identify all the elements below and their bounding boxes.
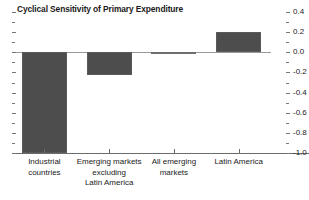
y-tick-minor-left <box>12 143 15 144</box>
y-tick-minor-left <box>12 42 15 43</box>
x-tick <box>109 149 110 153</box>
y-tick-minor-right <box>286 22 289 23</box>
bar <box>216 32 261 52</box>
y-axis-label: -1.0 <box>293 149 307 157</box>
bar <box>87 52 132 75</box>
bar <box>22 52 67 153</box>
y-axis-label: -0.2 <box>293 68 307 76</box>
y-tick-major-left <box>12 12 16 13</box>
x-tick <box>44 149 45 153</box>
y-tick-minor-right <box>286 62 289 63</box>
y-tick-minor-left <box>12 123 15 124</box>
x-axis-baseline <box>12 153 309 154</box>
y-tick-minor-right <box>286 103 289 104</box>
chart-figure: Cyclical Sensitivity of Primary Expendit… <box>0 0 309 200</box>
y-tick-major-right <box>286 52 290 53</box>
y-axis-label: 0.2 <box>293 28 304 36</box>
plot-area: 0.40.20.0-0.2-0.4-0.6-0.8-1.0Industrial … <box>12 12 271 153</box>
y-tick-major-left <box>12 72 16 73</box>
y-tick-major-left <box>12 113 16 114</box>
x-tick <box>239 149 240 153</box>
bar <box>151 52 196 54</box>
y-tick-minor-right <box>286 123 289 124</box>
y-tick-major-left <box>12 52 16 53</box>
y-tick-major-right <box>286 72 290 73</box>
y-tick-minor-right <box>286 83 289 84</box>
y-axis-label: -0.8 <box>293 129 307 137</box>
y-tick-major-right <box>286 12 290 13</box>
y-tick-major-right <box>286 93 290 94</box>
y-tick-minor-left <box>12 103 15 104</box>
y-axis-label: -0.4 <box>293 89 307 97</box>
y-tick-minor-left <box>12 83 15 84</box>
y-tick-major-left <box>12 153 16 154</box>
x-category-label: Latin America <box>200 157 277 168</box>
y-tick-major-right <box>286 133 290 134</box>
y-tick-major-left <box>12 133 16 134</box>
y-tick-major-left <box>12 93 16 94</box>
y-tick-major-right <box>286 32 290 33</box>
y-tick-major-left <box>12 32 16 33</box>
y-axis-label: 0.0 <box>293 48 304 56</box>
y-axis-label: -0.6 <box>293 109 307 117</box>
x-tick <box>174 149 175 153</box>
y-tick-minor-right <box>286 143 289 144</box>
y-axis-label: 0.4 <box>293 8 304 16</box>
y-tick-minor-right <box>286 42 289 43</box>
y-tick-minor-left <box>12 22 15 23</box>
y-tick-minor-left <box>12 62 15 63</box>
y-tick-major-right <box>286 113 290 114</box>
y-tick-major-right <box>286 153 290 154</box>
